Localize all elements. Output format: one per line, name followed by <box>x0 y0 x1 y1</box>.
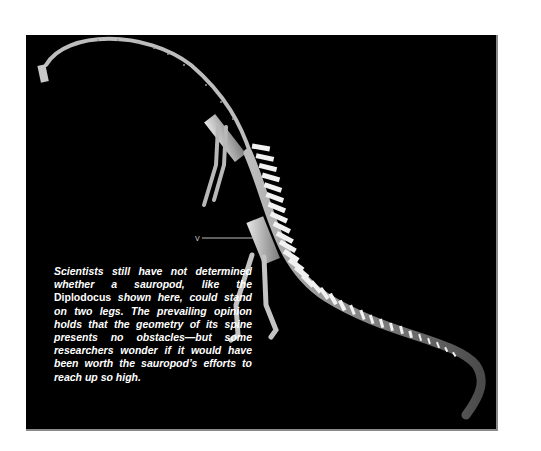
spine <box>248 153 481 415</box>
svg-text:V: V <box>195 235 200 242</box>
figure-caption: Scientists still have not determined whe… <box>54 265 252 384</box>
head <box>37 64 48 82</box>
marker: V <box>195 235 254 242</box>
figure-panel: V Scientists still have not determined w… <box>26 35 498 431</box>
